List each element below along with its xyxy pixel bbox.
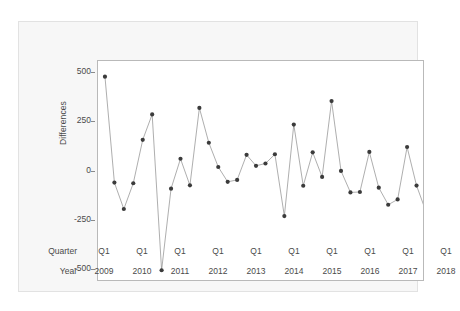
x-tick-label-year: 2015 bbox=[312, 267, 352, 276]
x-axis-row-title-year: Year bbox=[23, 267, 77, 276]
x-axis-labels: Quarter Year Q12009Q12010Q12011Q12012Q12… bbox=[19, 22, 419, 293]
x-tick-label-year: 2018 bbox=[426, 267, 460, 276]
x-tick-label-quarter: Q1 bbox=[160, 247, 200, 256]
x-tick-label-quarter: Q1 bbox=[426, 247, 460, 256]
x-tick-label-quarter: Q1 bbox=[312, 247, 352, 256]
x-tick-label-year: 2017 bbox=[388, 267, 428, 276]
x-tick-label-year: 2014 bbox=[274, 267, 314, 276]
x-tick-label-quarter: Q1 bbox=[198, 247, 238, 256]
x-tick-label-year: 2012 bbox=[198, 267, 238, 276]
x-tick-label-quarter: Q1 bbox=[274, 247, 314, 256]
x-tick-label-quarter: Q1 bbox=[122, 247, 162, 256]
x-tick-label-year: 2013 bbox=[236, 267, 276, 276]
x-tick-label-quarter: Q1 bbox=[350, 247, 390, 256]
x-tick-label-year: 2011 bbox=[160, 267, 200, 276]
x-tick-label-quarter: Q1 bbox=[84, 247, 124, 256]
x-tick-label-year: 2010 bbox=[122, 267, 162, 276]
x-tick-label-quarter: Q1 bbox=[236, 247, 276, 256]
figure-panel: Differences 5002500-250-500 2009 Q1: 480… bbox=[18, 21, 418, 292]
x-tick-label-quarter: Q1 bbox=[388, 247, 428, 256]
x-tick-label-year: 2016 bbox=[350, 267, 390, 276]
x-axis-row-title-quarter: Quarter bbox=[23, 247, 77, 256]
x-tick-label-year: 2009 bbox=[84, 267, 124, 276]
